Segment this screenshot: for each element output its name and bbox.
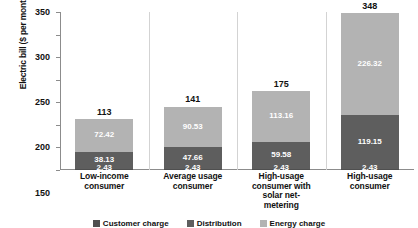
bar-segment-middle[interactable]: 119.15 — [341, 115, 399, 169]
bar-group[interactable]: 14190.5347.662.43 — [164, 107, 222, 170]
legend-swatch — [187, 220, 194, 227]
stacked-bar-chart: Electric bill ($ per month) 350300250200… — [0, 0, 418, 228]
bar-group[interactable]: 11372.4238.132.43 — [75, 119, 133, 170]
bar-segment-base[interactable]: 2.43 — [252, 169, 310, 170]
chart-legend: Customer chargeDistributionEnergy charge — [0, 219, 418, 228]
y-tick-mark: 200 — [56, 80, 60, 81]
y-tick-mark: 350 — [56, 12, 60, 13]
x-axis-label-line: consumer — [60, 182, 149, 192]
y-tick-label: 250 — [35, 97, 50, 107]
y-tick-mark: - — [56, 170, 60, 171]
x-axis-label: High-usageconsumer withsolar net-meterin… — [237, 172, 326, 210]
x-axis-label: Average usageconsumer — [149, 172, 238, 191]
bar-segment-base[interactable]: 2.43 — [341, 169, 399, 170]
y-tick-label: 200 — [35, 142, 50, 152]
x-axis-label: High-usageconsumer — [326, 172, 415, 191]
bar-segment-value: 90.53 — [183, 123, 203, 131]
legend-label: Energy charge — [270, 219, 326, 228]
bar-segment-base[interactable]: 2.43 — [164, 169, 222, 170]
bar-group[interactable]: 175113.1659.582.43 — [252, 91, 310, 170]
y-tick-mark: 300 — [56, 35, 60, 36]
legend-item[interactable]: Energy charge — [260, 219, 326, 228]
y-tick-mark: 50 — [56, 147, 60, 148]
x-axis-label-line: consumer — [149, 182, 238, 192]
x-axis-label-line: metering — [237, 201, 326, 211]
bar-segment-top[interactable]: 72.42 — [75, 119, 133, 152]
bar-total-label: 113 — [97, 107, 112, 117]
bar-total-label: 141 — [185, 94, 200, 104]
bar-segment-value: 72.42 — [94, 131, 114, 139]
plot-area: 35030025020015010050- 11372.4238.132.431… — [60, 12, 414, 170]
bar-segment-value: 226.32 — [358, 60, 382, 68]
legend-label: Distribution — [197, 219, 242, 228]
y-tick-label: 350 — [35, 7, 50, 17]
bar-total-label: 175 — [274, 79, 289, 89]
y-axis-line — [60, 12, 61, 170]
y-tick-label: 300 — [35, 52, 50, 62]
y-tick-mark: 250 — [56, 57, 60, 58]
x-axis-label-line: consumer — [326, 182, 415, 192]
x-axis-label: Low-incomeconsumer — [60, 172, 149, 191]
bar-segment-value: 47.66 — [183, 154, 203, 162]
bar-segment-top[interactable]: 226.32 — [341, 13, 399, 115]
y-tick-mark: 100 — [56, 125, 60, 126]
y-tick-mark: 150 — [56, 102, 60, 103]
legend-item[interactable]: Customer charge — [93, 219, 169, 228]
bar-group[interactable]: 348226.32119.152.43 — [341, 13, 399, 170]
bar-segment-base[interactable]: 2.43 — [75, 169, 133, 170]
bar-segment-value: 59.58 — [271, 151, 291, 159]
legend-swatch — [93, 220, 100, 227]
legend-swatch — [260, 220, 267, 227]
category-separator — [149, 12, 150, 170]
legend-item[interactable]: Distribution — [187, 219, 242, 228]
category-separator — [237, 12, 238, 170]
category-separator — [326, 12, 327, 170]
y-tick-label: 150 — [35, 188, 50, 198]
legend-label: Customer charge — [103, 219, 169, 228]
bar-segment-value: 119.15 — [358, 138, 382, 146]
bar-total-label: 348 — [362, 1, 377, 11]
bar-segment-top[interactable]: 113.16 — [252, 91, 310, 142]
bar-segment-top[interactable]: 90.53 — [164, 107, 222, 148]
y-axis-title: Electric bill ($ per month) — [18, 0, 28, 116]
bar-segment-value: 113.16 — [269, 112, 293, 120]
